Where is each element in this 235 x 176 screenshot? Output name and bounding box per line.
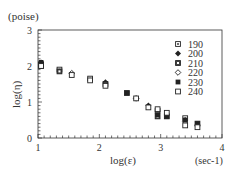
legend: 190200210220230240 xyxy=(175,39,203,98)
y-tick-labels: 0123 xyxy=(27,25,32,144)
data-point-240 xyxy=(134,96,139,101)
x-tick-label: 4 xyxy=(220,142,225,153)
data-point-240 xyxy=(69,73,74,78)
x-tick-label: 1 xyxy=(36,142,41,153)
data-point-240 xyxy=(195,125,200,130)
legend-marker-210 xyxy=(176,61,181,66)
x-tick-label: 3 xyxy=(158,142,163,153)
data-point-240 xyxy=(164,110,169,115)
x-unit-label: (sec-1) xyxy=(195,155,223,167)
y-unit-label: (poise) xyxy=(8,10,39,23)
data-point-240 xyxy=(88,78,93,83)
data-point-240 xyxy=(146,105,151,110)
legend-marker-190 xyxy=(176,42,181,47)
x-tick-label: 2 xyxy=(97,142,102,153)
legend-marker-200 xyxy=(175,51,181,57)
data-point-240 xyxy=(103,83,108,88)
y-axis-label: log(η) xyxy=(10,81,23,108)
y-tick-label: 1 xyxy=(27,97,32,108)
legend-label: 240 xyxy=(188,86,203,97)
data-point-210 xyxy=(57,69,62,74)
data-point-240 xyxy=(183,123,188,128)
data-point-230 xyxy=(125,91,130,96)
legend-marker-230 xyxy=(176,80,181,85)
x-axis-label: log(ε) xyxy=(110,154,136,167)
data-point-230 xyxy=(183,118,188,123)
data-points xyxy=(38,59,200,129)
legend-marker-220 xyxy=(175,70,181,76)
data-point-240 xyxy=(39,64,44,69)
y-tick-label: 0 xyxy=(27,133,32,144)
y-tick-label: 2 xyxy=(27,61,32,72)
scatter-chart: (poise) log(ε) (sec-1) log(η) 1234 0123 … xyxy=(0,0,235,176)
data-point-230 xyxy=(155,112,160,117)
data-point-240 xyxy=(155,107,160,112)
x-tick-labels: 1234 xyxy=(36,142,225,153)
y-tick-label: 3 xyxy=(27,25,32,36)
legend-marker-240 xyxy=(176,89,181,94)
